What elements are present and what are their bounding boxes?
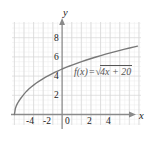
radicand: 4x + 20 — [100, 65, 132, 77]
x-axis-arrowhead — [129, 112, 136, 118]
y-axis-arrowhead — [59, 18, 65, 25]
x-tick-label--2: -2 — [43, 117, 51, 127]
x-tick-label-0: 0 — [65, 117, 70, 127]
graph-figure: -4 -2 0 2 4 2 4 6 8 x y f(x)=√4x + 20 — [0, 0, 153, 144]
x-tick-label--4: -4 — [26, 117, 34, 127]
function-equation-label: f(x)=√4x + 20 — [74, 67, 132, 77]
function-equals-sign: = — [88, 66, 96, 77]
function-lhs: f(x) — [74, 66, 88, 77]
x-axis-label: x — [139, 111, 144, 122]
y-tick-label-6: 6 — [54, 53, 59, 63]
function-curve — [14, 46, 137, 114]
x-tick-label-4: 4 — [106, 117, 111, 127]
y-tick-label-8: 8 — [54, 34, 59, 44]
y-axis-label: y — [63, 8, 68, 19]
y-tick-label-2: 2 — [54, 91, 59, 101]
y-tick-label-4: 4 — [54, 72, 59, 82]
x-tick-label-2: 2 — [87, 117, 92, 127]
